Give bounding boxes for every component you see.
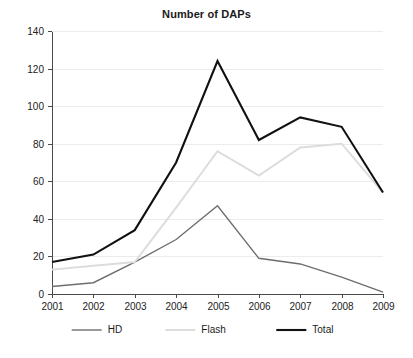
y-tick-label-100: 100: [27, 101, 44, 112]
legend-label-hd: HD: [108, 324, 122, 335]
y-tick-label-80: 80: [33, 139, 45, 150]
chart-legend: HDFlashTotal: [72, 324, 334, 335]
x-tick-label-2007: 2007: [289, 301, 312, 312]
line-chart-plot: 020406080100120140 200120022003200420052…: [0, 0, 413, 358]
x-tick-label-2006: 2006: [248, 301, 271, 312]
y-axis-ticks: 020406080100120140: [27, 26, 52, 300]
y-tick-label-140: 140: [27, 26, 44, 37]
x-axis-ticks: 200120022003200420052006200720082009: [41, 294, 395, 312]
series-line-total: [52, 61, 383, 262]
y-tick-label-60: 60: [33, 176, 45, 187]
x-tick-label-2003: 2003: [124, 301, 147, 312]
x-tick-label-2002: 2002: [82, 301, 105, 312]
y-tick-label-0: 0: [38, 289, 44, 300]
y-tick-label-40: 40: [33, 214, 45, 225]
data-series: [52, 61, 383, 292]
x-tick-label-2005: 2005: [207, 301, 230, 312]
x-tick-label-2008: 2008: [331, 301, 354, 312]
axes: [53, 32, 384, 295]
x-tick-label-2009: 2009: [372, 301, 395, 312]
x-tick-label-2004: 2004: [165, 301, 188, 312]
chart-container: Number of DAPs 020406080100120140 200120…: [0, 0, 413, 358]
y-tick-label-120: 120: [27, 64, 44, 75]
legend-label-flash: Flash: [201, 324, 225, 335]
y-tick-label-20: 20: [33, 251, 45, 262]
x-tick-label-2001: 2001: [41, 301, 64, 312]
legend-label-total: Total: [312, 324, 333, 335]
